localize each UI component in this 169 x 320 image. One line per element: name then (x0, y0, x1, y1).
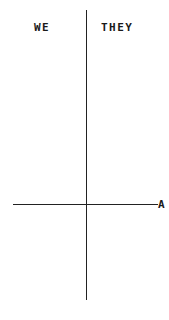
we-label: WE (34, 21, 50, 34)
horizontal-axis-line (13, 204, 158, 205)
they-label: THEY (101, 21, 134, 34)
vertical-divider-line (86, 10, 87, 300)
axis-a-label: A (158, 198, 165, 211)
